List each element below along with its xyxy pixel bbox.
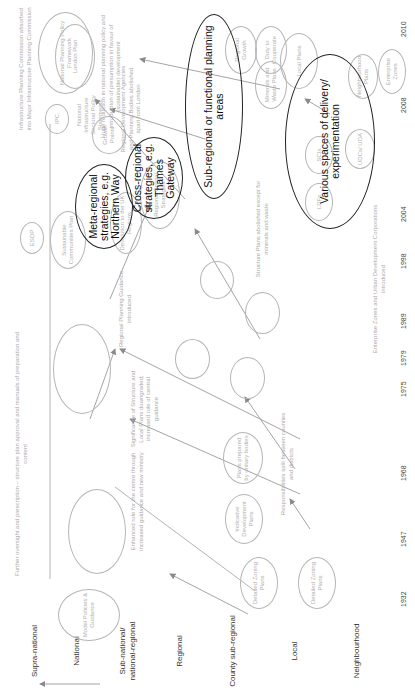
note-huge-reduction: Huge reduction in national planning poli… (100, 14, 123, 139)
node-nppf: National Planning Policy Framework (38, 12, 93, 94)
level-supra-national: Supra-national (30, 611, 40, 691)
note-structure-abolished: Structure Plans abolished except for min… (255, 169, 270, 289)
node-national-1968 (68, 489, 126, 574)
year-2004: 2004 (400, 206, 407, 222)
level-neighbourhood: Neighbourhood (352, 611, 362, 691)
note-significance: Significance of Structure and Local Plan… (130, 369, 160, 449)
node-ipc: IPC (45, 104, 69, 134)
year-1947: 1947 (400, 531, 407, 547)
node-esdp: ESDP (20, 222, 44, 254)
group-sub-regional: Sub-regional or functional planning area… (185, 14, 243, 199)
node-enterprise-zones: Enterprise Zones (378, 49, 406, 94)
node-indicative-dev-plans: Indicative Development Plans (225, 494, 263, 544)
note-ipc-absorbed: Infrastructure Planning Commission absor… (18, 4, 33, 134)
node-county-1975 (230, 357, 265, 399)
node-county-1989 (175, 339, 210, 379)
node-local-1998 (200, 261, 234, 299)
node-plans-unitary: Plans prepared by unitary bodies (223, 432, 263, 484)
year-1989: 1989 (400, 313, 407, 329)
year-1975: 1975 (400, 381, 407, 397)
year-1932: 1932 (400, 591, 407, 607)
note-rda-abolished: Regional Development Agencies and Planni… (120, 64, 143, 154)
note-oversight: Further oversight and prescription – str… (14, 329, 29, 579)
note-enterprise-udc: Enterprise Zones and Urban Development C… (372, 199, 387, 359)
note-rpg: Regional Planning Guidance introduced (118, 269, 133, 349)
group-various-spaces: Various spaces of delivery/ experimentat… (285, 54, 375, 229)
level-sub-national: Sub-national/ national-regional (118, 611, 138, 691)
year-1968: 1968 (400, 465, 407, 481)
node-model-policies: Model Policies & Guidance (58, 589, 120, 641)
node-detailed-zoning-county: Detailed Zoning Plans (240, 557, 278, 609)
planning-timeline-diagram: Supra-national National Sub-national/ na… (0, 0, 415, 699)
year-2010: 2010 (400, 21, 407, 37)
note-responsibilities: Responsibilities split between counties … (280, 409, 295, 519)
year-1998: 1998 (400, 253, 407, 269)
node-regional-1979 (53, 324, 111, 414)
node-local-1989 (245, 292, 280, 334)
level-local: Local (290, 611, 300, 691)
note-enhanced-role: Enhanced role for the centre through inc… (130, 449, 145, 554)
level-county: County sub-regional (228, 611, 238, 691)
level-regional: Regional (175, 611, 185, 691)
year-1979: 1979 (400, 350, 407, 366)
node-detailed-zoning-local: Detailed Zoning Plans (298, 557, 336, 609)
year-2008: 2008 (400, 97, 407, 113)
